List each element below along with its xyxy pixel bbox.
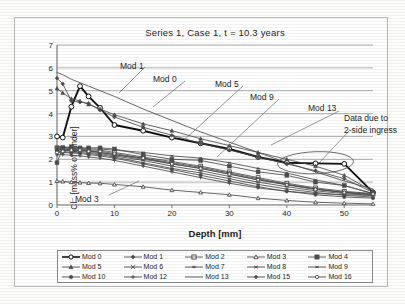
callout-mod-13: Mod 13 bbox=[308, 103, 336, 113]
legend-label: Mod 13 bbox=[204, 273, 228, 280]
callout-data-due-to: Data due to bbox=[344, 113, 388, 123]
legend-label: Mod 8 bbox=[266, 263, 286, 270]
x-tick-label: 10 bbox=[110, 209, 119, 218]
y-tick-label: 4 bbox=[49, 109, 53, 118]
y-tick-label: 3 bbox=[49, 132, 53, 141]
legend-label: Mod 9 bbox=[327, 263, 347, 270]
x-tick-label: 40 bbox=[282, 209, 291, 218]
legend-marker-icon bbox=[61, 252, 81, 262]
legend-label: Mod 4 bbox=[327, 253, 347, 260]
legend-item-mod-8[interactable]: Mod 8 bbox=[246, 262, 308, 272]
legend-marker-icon bbox=[246, 252, 266, 262]
legend-label: Mod 15 bbox=[266, 273, 290, 280]
legend-item-mod-6[interactable]: Mod 6 bbox=[123, 262, 185, 272]
legend-item-mod-2[interactable]: Mod 2 bbox=[184, 252, 246, 262]
legend-label: Mod 0 bbox=[81, 253, 101, 260]
y-tick-label: 0 bbox=[49, 201, 53, 210]
legend-marker-icon bbox=[61, 262, 81, 272]
legend-label: Mod 2 bbox=[204, 253, 224, 260]
legend-marker-icon bbox=[307, 272, 327, 282]
legend-item-mod-4[interactable]: Mod 4 bbox=[307, 252, 369, 262]
plot-area: Cl⁻ [mass% of binder] 01234567 010203040… bbox=[57, 45, 373, 205]
legend-label: Mod 3 bbox=[266, 253, 286, 260]
legend-marker-icon bbox=[307, 262, 327, 272]
legend-marker-icon bbox=[307, 252, 327, 262]
x-tick-label: 20 bbox=[167, 209, 176, 218]
annotation-layer bbox=[57, 45, 373, 205]
x-tick-label: 0 bbox=[55, 209, 59, 218]
legend-label: Mod 6 bbox=[143, 263, 163, 270]
y-tick-label: 6 bbox=[49, 63, 53, 72]
chart-figure: Series 1, Case 1, t = 10.3 years Depth [… bbox=[0, 0, 405, 304]
legend-marker-icon bbox=[184, 262, 204, 272]
legend-item-mod-13[interactable]: Mod 13 bbox=[184, 272, 246, 282]
legend-item-mod-12[interactable]: Mod 12 bbox=[123, 272, 185, 282]
legend-marker-icon bbox=[61, 272, 81, 282]
callout-mod-1: Mod 1 bbox=[120, 61, 144, 71]
callout-mod-9: Mod 9 bbox=[250, 92, 274, 102]
chart-title: Series 1, Case 1, t = 10.3 years bbox=[57, 27, 373, 38]
y-tick-label: 2 bbox=[49, 155, 53, 164]
legend-marker-icon bbox=[246, 262, 266, 272]
y-tick-label: 1 bbox=[49, 178, 53, 187]
x-tick-label: 50 bbox=[340, 209, 349, 218]
chart-legend: Mod 0Mod 1Mod 2Mod 3Mod 4Mod 5Mod 6Mod 7… bbox=[57, 250, 373, 283]
y-tick-label: 5 bbox=[49, 86, 53, 95]
legend-item-mod-9[interactable]: Mod 9 bbox=[307, 262, 369, 272]
legend-item-mod-1[interactable]: Mod 1 bbox=[123, 252, 185, 262]
legend-item-mod-5[interactable]: Mod 5 bbox=[61, 262, 123, 272]
legend-item-mod-15[interactable]: Mod 15 bbox=[246, 272, 308, 282]
legend-marker-icon bbox=[246, 272, 266, 282]
legend-item-mod-7[interactable]: Mod 7 bbox=[184, 262, 246, 272]
callout-mod-5: Mod 5 bbox=[215, 79, 239, 89]
legend-label: Mod 1 bbox=[143, 253, 163, 260]
legend-marker-icon bbox=[184, 272, 204, 282]
callout-mod-3: Mod 3 bbox=[75, 194, 99, 204]
legend-item-mod-16[interactable]: Mod 16 bbox=[307, 272, 369, 282]
legend-label: Mod 10 bbox=[81, 273, 105, 280]
y-tick-label: 7 bbox=[49, 41, 53, 50]
legend-label: Mod 16 bbox=[327, 273, 351, 280]
x-tick-label: 30 bbox=[225, 209, 234, 218]
callout-mod-0: Mod 0 bbox=[153, 74, 177, 84]
legend-item-mod-3[interactable]: Mod 3 bbox=[246, 252, 308, 262]
x-axis-title: Depth [mm] bbox=[57, 228, 373, 239]
legend-label: Mod 7 bbox=[204, 263, 224, 270]
legend-item-mod-0[interactable]: Mod 0 bbox=[61, 252, 123, 262]
legend-marker-icon bbox=[184, 252, 204, 262]
legend-marker-icon bbox=[123, 252, 143, 262]
legend-label: Mod 5 bbox=[81, 263, 101, 270]
callout-2-side-ingress: 2-side ingress bbox=[344, 125, 397, 135]
legend-marker-icon bbox=[123, 272, 143, 282]
legend-item-mod-10[interactable]: Mod 10 bbox=[61, 272, 123, 282]
legend-label: Mod 12 bbox=[143, 273, 167, 280]
legend-marker-icon bbox=[123, 262, 143, 272]
